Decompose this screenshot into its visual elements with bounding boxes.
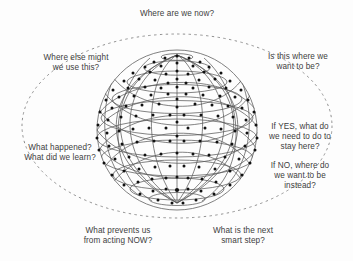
- question-where-else-might-we-use-this: Where else might we use this?: [20, 53, 132, 73]
- wireframe-globe: [96, 50, 259, 210]
- question-where-are-we-now: Where are we now?: [111, 9, 243, 19]
- question-what-happened-what-did-we-learn: What happened? What did we learn?: [6, 143, 114, 163]
- question-what-prevents-us: What prevents us from acting NOW?: [63, 226, 173, 246]
- question-if-no-where-instead: If NO, where do we want to be instead?: [250, 161, 350, 192]
- question-if-yes-stay-here: If YES, what do we need to do to stay he…: [250, 122, 350, 153]
- question-is-this-where-we-want-to-be: Is this where we want to be?: [248, 52, 348, 72]
- question-next-smart-step: What is the next smart step?: [191, 226, 295, 246]
- diagram-canvas: Where are we now? Is this where we want …: [0, 0, 353, 261]
